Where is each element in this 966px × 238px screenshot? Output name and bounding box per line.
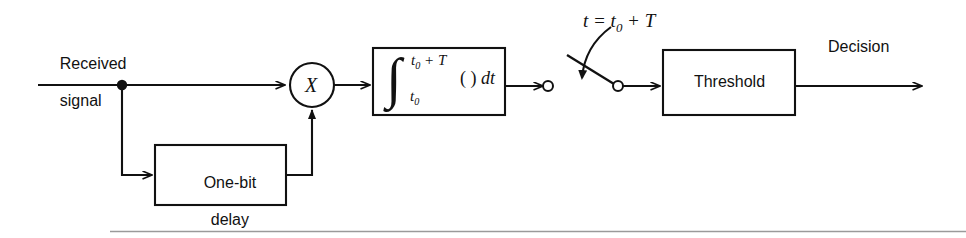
decision-label: Decision	[828, 38, 889, 56]
switch-left-terminal	[543, 81, 553, 91]
delay-feedback-path	[286, 110, 312, 175]
switch-blade[interactable]	[567, 55, 614, 84]
one-bit-delay-label: One-bit delay	[166, 156, 276, 238]
integral-lower-limit: t0	[410, 88, 419, 107]
switch-right-terminal	[613, 81, 623, 91]
figure-canvas: Received signal X One-bit delay Threshol…	[0, 0, 966, 238]
upper-limit-tail: + T	[420, 52, 446, 68]
lower-limit-subscript: 0	[414, 96, 419, 107]
delay-line1: One-bit	[204, 174, 256, 191]
block-diagram-svg	[0, 0, 966, 238]
differential: dt	[481, 68, 495, 88]
integral-body: ( ) dt	[460, 68, 495, 89]
delay-input-path	[122, 85, 152, 175]
input-signal-line2: signal	[60, 92, 102, 109]
sampling-switch[interactable]	[567, 55, 623, 91]
multiplier-label: X	[305, 74, 317, 97]
switch-time-main: t = t	[583, 10, 616, 31]
input-signal-line1: Received	[60, 55, 127, 72]
threshold-label: Threshold	[673, 73, 786, 91]
switch-time-label: t = t0 + T	[583, 10, 655, 36]
switch-time-tail: + T	[622, 10, 655, 31]
integrator-to-switch-path	[505, 81, 553, 91]
integrand-parens: ( )	[460, 68, 481, 88]
delay-line2: delay	[211, 211, 249, 228]
input-signal-label: Received signal	[42, 37, 126, 129]
integrator-expression: ∫ t0 + T t0 ( ) dt	[386, 52, 502, 112]
integral-upper-limit: t0 + T	[411, 52, 446, 71]
integral-sign: ∫	[386, 50, 401, 106]
